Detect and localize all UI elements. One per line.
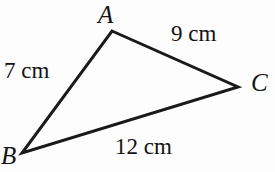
triangle-figure: A B C 7 cm 9 cm 12 cm [0,0,275,172]
vertex-label-a: A [98,2,113,27]
side-length-label-bc: 12 cm [115,135,172,158]
vertex-label-c: C [251,70,268,95]
side-length-label-ac: 9 cm [171,22,216,45]
vertex-label-b: B [1,143,16,168]
side-length-label-ab: 7 cm [4,59,49,82]
